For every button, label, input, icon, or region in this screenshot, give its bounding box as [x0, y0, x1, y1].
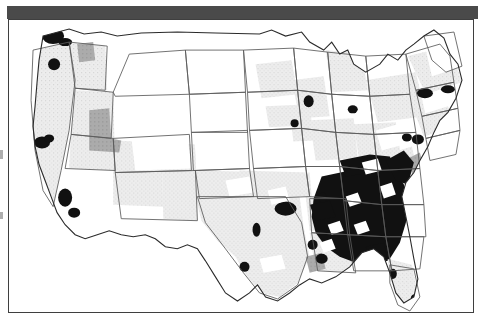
header-bar: [7, 6, 478, 19]
scan-edge-mark: [0, 212, 3, 219]
figure-page: [0, 0, 489, 324]
us-choropleth-map: [9, 20, 473, 312]
scan-edge-mark: [0, 150, 3, 159]
map-body: [9, 20, 473, 312]
map-frame: [8, 19, 474, 313]
